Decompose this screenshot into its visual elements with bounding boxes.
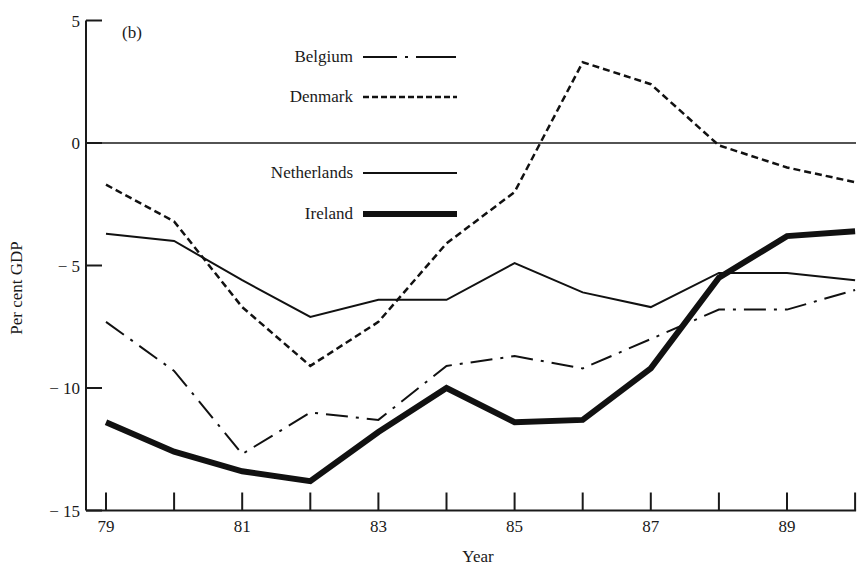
panel-label: (b) xyxy=(122,23,142,42)
legend-item-denmark: Denmark xyxy=(290,87,457,106)
x-tick-label: 81 xyxy=(234,517,251,536)
y-tick-label: − 15 xyxy=(49,502,80,521)
x-tick-label: 89 xyxy=(779,517,796,536)
legend-label: Denmark xyxy=(290,87,354,106)
series-line-ireland xyxy=(106,231,855,481)
legend: BelgiumDenmarkNetherlandsIreland xyxy=(271,47,457,223)
chart: 50− 5− 10− 15798183858789YearPer cent GD… xyxy=(0,0,861,569)
y-tick-label: 0 xyxy=(72,134,81,153)
series-line-denmark xyxy=(106,62,855,366)
y-tick-label: − 10 xyxy=(49,379,80,398)
x-tick-label: 85 xyxy=(506,517,523,536)
legend-item-belgium: Belgium xyxy=(294,47,457,66)
x-axis-label: Year xyxy=(462,547,494,566)
legend-label: Netherlands xyxy=(271,163,353,182)
y-tick-label: − 5 xyxy=(58,257,80,276)
legend-label: Belgium xyxy=(294,47,353,66)
y-tick-label: 5 xyxy=(72,12,81,31)
x-tick-label: 87 xyxy=(642,517,660,536)
legend-item-netherlands: Netherlands xyxy=(271,163,457,182)
y-axis-label: Per cent GDP xyxy=(7,241,26,334)
legend-item-ireland: Ireland xyxy=(305,204,457,223)
legend-label: Ireland xyxy=(305,204,354,223)
x-tick-label: 83 xyxy=(370,517,387,536)
x-tick-label: 79 xyxy=(98,517,115,536)
series-line-belgium xyxy=(106,290,855,454)
